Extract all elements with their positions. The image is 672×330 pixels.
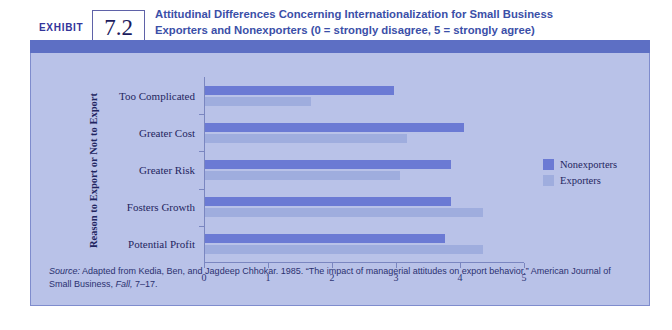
source-text-part-2: 7–17. [133,279,158,289]
exhibit-number: 7.2 [104,16,133,39]
chart-plot-area: 012345 Too ComplicatedGreater CostGreate… [204,77,524,269]
chart-bar [205,86,394,95]
exhibit-word: EXHIBIT [39,22,83,33]
chart-bar [205,245,483,254]
source-text-italic: Fall, [116,279,133,289]
page-title: Attitudinal Differences Concerning Inter… [155,6,655,38]
banner-bar [30,40,650,53]
chart-legend: NonexportersExporters [543,159,617,191]
y-axis-title-text: Reason to Export or Not to Export [88,93,99,248]
legend-label: Exporters [560,175,601,186]
legend-swatch [543,159,554,170]
y-tick-mark [199,114,204,115]
legend-swatch [543,175,554,186]
legend-item: Nonexporters [543,159,617,170]
x-axis-line [204,262,524,263]
y-axis-category-label: Greater Cost [139,127,195,139]
exhibit-title-line-2: Exporters and Nonexporters (0 = strongly… [155,22,655,38]
chart-bar [205,171,400,180]
exhibit-number-box: 7.2 [92,10,145,44]
legend-label: Nonexporters [560,159,617,170]
y-tick-mark [199,151,204,152]
y-tick-mark [199,189,204,190]
chart-bar [205,197,451,206]
y-axis-category-label: Too Complicated [119,90,195,102]
chart-bar [205,234,445,243]
chart-bar [205,134,407,143]
y-axis-category-label: Fosters Growth [127,201,195,213]
y-axis-category-label: Greater Risk [139,164,195,176]
chart-bar [205,97,311,106]
source-label: Source: [49,266,80,276]
exhibit-title-line-1: Attitudinal Differences Concerning Inter… [155,6,655,22]
source-note: Source: Adapted from Kedia, Ben, and Jag… [49,265,633,291]
chart-bar [205,208,483,217]
chart-bar [205,160,451,169]
exhibit-panel: Reason to Export or Not to Export 012345… [30,53,650,306]
y-tick-mark [199,226,204,227]
legend-item: Exporters [543,175,617,186]
y-axis-category-label: Potential Profit [128,238,195,250]
chart-bar [205,123,464,132]
y-axis-title: Reason to Export or Not to Export [85,77,101,263]
